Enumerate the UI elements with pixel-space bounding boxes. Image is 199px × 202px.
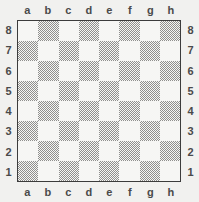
board-square-d8[interactable] xyxy=(79,21,99,41)
board-square-h4[interactable] xyxy=(160,101,180,121)
board-square-g1[interactable] xyxy=(140,161,160,181)
board-square-c6[interactable] xyxy=(59,61,79,81)
file-label-bottom-g: g xyxy=(140,183,161,201)
board-square-a6[interactable] xyxy=(18,61,38,81)
board-square-c8[interactable] xyxy=(59,21,79,41)
board-square-f8[interactable] xyxy=(119,21,139,41)
board-square-f4[interactable] xyxy=(119,101,139,121)
board-square-g7[interactable] xyxy=(140,41,160,61)
board-square-f1[interactable] xyxy=(119,161,139,181)
rank-label-left-8: 8 xyxy=(1,20,16,40)
rank-label-right-3: 3 xyxy=(183,121,198,141)
rank-label-left-4: 4 xyxy=(1,101,16,121)
board-square-h1[interactable] xyxy=(160,161,180,181)
rank-label-left-5: 5 xyxy=(1,81,16,101)
rank-label-left-7: 7 xyxy=(1,40,16,60)
board-square-a2[interactable] xyxy=(18,141,38,161)
board-square-g3[interactable] xyxy=(140,121,160,141)
board-border xyxy=(17,20,181,182)
board-square-c2[interactable] xyxy=(59,141,79,161)
file-label-bottom-b: b xyxy=(38,183,59,201)
board-square-b8[interactable] xyxy=(38,21,58,41)
board-square-a3[interactable] xyxy=(18,121,38,141)
rank-label-left-1: 1 xyxy=(1,162,16,182)
board-square-h3[interactable] xyxy=(160,121,180,141)
board-square-f6[interactable] xyxy=(119,61,139,81)
board-square-b3[interactable] xyxy=(38,121,58,141)
board-square-h2[interactable] xyxy=(160,141,180,161)
file-label-bottom-f: f xyxy=(120,183,141,201)
board-square-d2[interactable] xyxy=(79,141,99,161)
board-square-b4[interactable] xyxy=(38,101,58,121)
board-square-b5[interactable] xyxy=(38,81,58,101)
board-square-h6[interactable] xyxy=(160,61,180,81)
file-label-bottom-c: c xyxy=(58,183,79,201)
rank-label-right-1: 1 xyxy=(183,162,198,182)
board-square-h8[interactable] xyxy=(160,21,180,41)
board-square-c1[interactable] xyxy=(59,161,79,181)
rank-label-right-2: 2 xyxy=(183,142,198,162)
rank-label-right-8: 8 xyxy=(183,20,198,40)
board-square-c3[interactable] xyxy=(59,121,79,141)
rank-labels-left: 8 7 6 5 4 3 2 1 xyxy=(1,20,16,182)
board-square-a5[interactable] xyxy=(18,81,38,101)
rank-label-right-5: 5 xyxy=(183,81,198,101)
board-square-e8[interactable] xyxy=(99,21,119,41)
rank-labels-right: 8 7 6 5 4 3 2 1 xyxy=(183,20,198,182)
board-square-g5[interactable] xyxy=(140,81,160,101)
board-square-d3[interactable] xyxy=(79,121,99,141)
board-square-d1[interactable] xyxy=(79,161,99,181)
rank-label-right-7: 7 xyxy=(183,40,198,60)
board-square-a4[interactable] xyxy=(18,101,38,121)
board-square-f3[interactable] xyxy=(119,121,139,141)
board-square-e2[interactable] xyxy=(99,141,119,161)
board-square-g2[interactable] xyxy=(140,141,160,161)
file-labels-bottom: a b c d e f g h xyxy=(17,183,181,201)
board-square-d6[interactable] xyxy=(79,61,99,81)
file-label-top-f: f xyxy=(120,1,141,19)
board-grid xyxy=(18,21,180,181)
board-square-a1[interactable] xyxy=(18,161,38,181)
file-label-top-d: d xyxy=(79,1,100,19)
board-square-b6[interactable] xyxy=(38,61,58,81)
board-square-b2[interactable] xyxy=(38,141,58,161)
file-label-bottom-e: e xyxy=(99,183,120,201)
board-square-b7[interactable] xyxy=(38,41,58,61)
file-labels-top: a b c d e f g h xyxy=(17,1,181,19)
board-square-c5[interactable] xyxy=(59,81,79,101)
board-square-g4[interactable] xyxy=(140,101,160,121)
board-square-f7[interactable] xyxy=(119,41,139,61)
rank-label-left-6: 6 xyxy=(1,61,16,81)
board-square-e3[interactable] xyxy=(99,121,119,141)
rank-label-right-4: 4 xyxy=(183,101,198,121)
board-square-d7[interactable] xyxy=(79,41,99,61)
file-label-bottom-d: d xyxy=(79,183,100,201)
chessboard-diagram: a b c d e f g h 8 7 6 5 4 3 2 1 8 7 6 5 … xyxy=(0,0,199,202)
board-square-e6[interactable] xyxy=(99,61,119,81)
file-label-top-h: h xyxy=(161,1,182,19)
board-square-d4[interactable] xyxy=(79,101,99,121)
board-square-e4[interactable] xyxy=(99,101,119,121)
file-label-top-c: c xyxy=(58,1,79,19)
board-square-c7[interactable] xyxy=(59,41,79,61)
file-label-top-a: a xyxy=(17,1,38,19)
board-square-e7[interactable] xyxy=(99,41,119,61)
board-square-f2[interactable] xyxy=(119,141,139,161)
file-label-top-b: b xyxy=(38,1,59,19)
board-square-a7[interactable] xyxy=(18,41,38,61)
board-square-g8[interactable] xyxy=(140,21,160,41)
board-square-d5[interactable] xyxy=(79,81,99,101)
board-square-e5[interactable] xyxy=(99,81,119,101)
board-square-g6[interactable] xyxy=(140,61,160,81)
board-square-b1[interactable] xyxy=(38,161,58,181)
board-square-h5[interactable] xyxy=(160,81,180,101)
board-square-a8[interactable] xyxy=(18,21,38,41)
board-square-c4[interactable] xyxy=(59,101,79,121)
file-label-bottom-h: h xyxy=(161,183,182,201)
board-square-h7[interactable] xyxy=(160,41,180,61)
file-label-top-e: e xyxy=(99,1,120,19)
rank-label-left-2: 2 xyxy=(1,142,16,162)
board-square-e1[interactable] xyxy=(99,161,119,181)
file-label-bottom-a: a xyxy=(17,183,38,201)
board-square-f5[interactable] xyxy=(119,81,139,101)
